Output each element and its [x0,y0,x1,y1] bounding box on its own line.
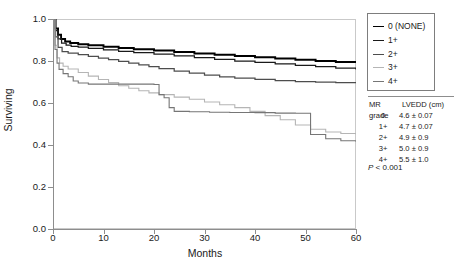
plot-area [53,19,356,229]
cell-mr-grade: 3+ [368,143,398,154]
x-tick-label: 0 [40,233,66,243]
survival-curve-2+ [53,19,356,83]
legend-item-label: 4+ [388,77,398,86]
table-row: 1+4.7 ± 0.07 [368,121,460,132]
legend-item-label: 2+ [388,50,398,59]
cell-lvedd: 5.5 ± 1.0 [399,154,460,165]
legend-item-label: 3+ [388,63,398,72]
p-value: P < 0.001 [368,163,402,172]
legend-item[interactable]: 3+ [373,61,398,74]
y-tick-label: 0.8 [22,56,46,66]
cell-mr-grade: 2+ [368,132,398,143]
y-tick-label: 0.4 [22,140,46,150]
legend-item[interactable]: 2+ [373,48,398,61]
y-axis-line [53,19,54,230]
cell-lvedd: 4.6 ± 0.07 [399,110,460,121]
cell-lvedd: 4.7 ± 0.07 [399,121,460,132]
y-tick-label: 1.0 [22,14,46,24]
cell-mr-grade: 1+ [368,121,398,132]
y-tick [48,145,53,146]
legend-item-label: 0 (NONE) [388,22,425,31]
legend-line-swatch [373,40,384,41]
y-tick [48,61,53,62]
survival-curves [53,19,356,229]
survival-curve-4+ [53,19,356,142]
x-tick-label: 20 [141,233,167,243]
legend: 0 (NONE)1+2+3+4+ [367,13,435,91]
p-value-text: < 0.001 [373,163,402,172]
cell-mr-grade: 0 [368,110,398,121]
table-row: 3+5.0 ± 0.9 [368,143,460,154]
x-tick-label: 50 [293,233,319,243]
y-tick-label-wrap: 0.8 [0,56,46,66]
x-tick-label: 10 [91,233,117,243]
x-tick-label: 60 [343,233,369,243]
header-lvedd: LVEDD (cm) [402,99,462,110]
table-row: 04.6 ± 0.07 [368,110,460,121]
legend-item[interactable]: 1+ [373,34,398,47]
y-tick [48,187,53,188]
y-tick-label: 0.2 [22,182,46,192]
y-axis-title: Surviving [2,88,14,131]
y-tick [48,19,53,20]
legend-line-swatch [373,67,384,68]
legend-line-swatch [373,26,384,27]
chart-figure: 0.00.20.40.60.81.0 0102030405060 Survivi… [0,0,462,261]
legend-item-label: 1+ [388,36,398,45]
legend-item[interactable]: 0 (NONE) [373,20,425,33]
y-tick-label-wrap: 0.4 [0,140,46,150]
legend-line-swatch [373,54,384,55]
y-tick-label-wrap: 0.2 [0,182,46,192]
cell-lvedd: 5.0 ± 0.9 [399,143,460,154]
x-tick-label: 30 [192,233,218,243]
stats-table: MR grade LVEDD (cm) 04.6 ± 0.071+4.7 ± 0… [368,99,460,165]
y-tick-label-wrap: 1.0 [0,14,46,24]
y-tick [48,103,53,104]
survival-curve-1+ [53,19,356,69]
table-top-rule [368,96,454,97]
legend-line-swatch [373,81,384,82]
x-axis-title: Months [53,247,357,259]
y-tick-label: 0.6 [22,98,46,108]
cell-lvedd: 4.9 ± 0.9 [399,132,460,143]
table-row: 2+4.9 ± 0.9 [368,132,460,143]
x-tick-label: 40 [242,233,268,243]
table-header-row: MR grade LVEDD (cm) [368,99,460,110]
legend-item[interactable]: 4+ [373,75,398,88]
